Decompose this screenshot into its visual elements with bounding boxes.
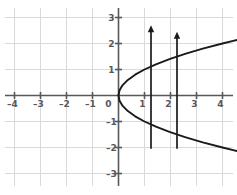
y-tick-label: 2 [108,39,114,49]
y-tick-label: –3 [106,169,117,179]
x-tick-label: 2 [165,99,171,109]
y-tick-label: –1 [106,117,117,127]
y-tick-label: –2 [106,143,117,153]
y-tick-label: 3 [108,13,114,23]
x-tick-label: 0 [105,99,111,109]
graph-figure: –4–3–2–101234–3–2–1123 [0,0,237,195]
x-tick-label: –1 [85,99,96,109]
x-tick-label: 1 [139,99,145,109]
x-tick-label: 3 [191,99,197,109]
x-tick-label: 4 [217,99,223,109]
coordinate-plane-svg: –4–3–2–101234–3–2–1123 [0,0,237,195]
x-tick-label: –2 [59,99,70,109]
y-tick-label: 1 [108,65,114,75]
x-tick-label: –4 [7,99,18,109]
x-tick-label: –3 [33,99,44,109]
